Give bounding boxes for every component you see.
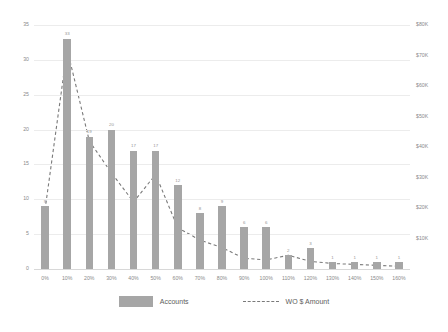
combo-chart: Accounts WO $ Amount 05101520253035$10K$…: [0, 0, 448, 332]
bar-value-label: 1: [345, 256, 365, 260]
bar: [41, 206, 49, 269]
bar: [130, 151, 138, 270]
bar-value-label: 20: [101, 123, 121, 127]
bar: [395, 262, 403, 269]
y-axis-left-tick: 30: [0, 57, 29, 62]
legend-item-wo-amount: WO $ Amount: [243, 298, 330, 305]
bar: [86, 137, 94, 269]
dashed-line-swatch-icon: [243, 301, 279, 302]
bar-value-label: 6: [256, 221, 276, 225]
bar-value-label: 3: [300, 242, 320, 246]
y-axis-left-tick: 10: [0, 196, 29, 201]
bar: [285, 255, 293, 269]
bar-value-label: 9: [212, 200, 232, 204]
bar: [240, 227, 248, 269]
y-axis-right-tick: $20K: [416, 205, 428, 210]
y-axis-right-tick: $30K: [416, 175, 428, 180]
y-axis-right-tick: $40K: [416, 144, 428, 149]
bar: [329, 262, 337, 269]
y-axis-left-tick: 5: [0, 231, 29, 236]
y-axis-right-tick: $50K: [416, 114, 428, 119]
legend-item-accounts: Accounts: [119, 296, 189, 307]
gridline: [34, 60, 410, 61]
chart-legend: Accounts WO $ Amount: [0, 296, 448, 307]
y-axis-right-tick: $80K: [416, 22, 428, 27]
y-axis-left-tick: 35: [0, 22, 29, 27]
bar-value-label: 17: [146, 144, 166, 148]
y-axis-left-tick: 15: [0, 161, 29, 166]
bar: [262, 227, 270, 269]
bar-value-label: 9: [35, 200, 55, 204]
bar-value-label: 8: [190, 207, 210, 211]
bar: [373, 262, 381, 269]
gridline: [34, 95, 410, 96]
bar-value-label: 1: [389, 256, 409, 260]
bar-value-label: 1: [323, 256, 343, 260]
bar-swatch-icon: [119, 296, 153, 307]
y-axis-right-tick: $10K: [416, 236, 428, 241]
y-axis-left-tick: 25: [0, 92, 29, 97]
bar: [108, 130, 116, 269]
bar-value-label: 6: [234, 221, 254, 225]
bar: [307, 248, 315, 269]
bar-value-label: 17: [124, 144, 144, 148]
y-axis-left-tick: 20: [0, 127, 29, 132]
y-axis-right-tick: $70K: [416, 53, 428, 58]
bar: [174, 185, 182, 269]
bar-value-label: 12: [168, 179, 188, 183]
bar: [196, 213, 204, 269]
y-axis-right-tick: $60K: [416, 83, 428, 88]
gridline: [34, 25, 410, 26]
bar: [63, 39, 71, 269]
legend-item-label: Accounts: [160, 298, 189, 305]
bar: [351, 262, 359, 269]
plot-area: [34, 25, 410, 269]
bar-value-label: 1: [367, 256, 387, 260]
bar-value-label: 19: [79, 130, 99, 134]
bar: [152, 151, 160, 270]
bar-value-label: 2: [278, 249, 298, 253]
bar-value-label: 33: [57, 32, 77, 36]
y-axis-left-tick: 0: [0, 266, 29, 271]
legend-item-label: WO $ Amount: [286, 298, 330, 305]
gridline: [34, 269, 410, 270]
x-axis-tick: 160%: [385, 276, 413, 281]
bar: [218, 206, 226, 269]
